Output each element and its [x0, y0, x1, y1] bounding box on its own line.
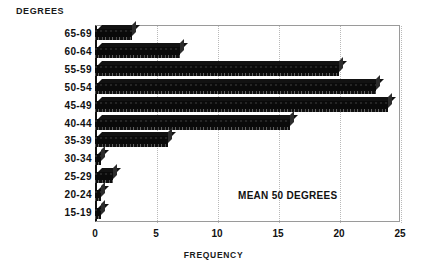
bar-texture-band-upper — [95, 137, 168, 139]
bar — [95, 208, 101, 219]
bar — [95, 136, 168, 147]
bar-side-face — [101, 182, 105, 197]
bar-texture-band — [95, 162, 101, 165]
bar — [95, 119, 290, 130]
category-label: 50-54 — [30, 82, 92, 93]
bar-texture-band-upper — [95, 30, 132, 32]
bar — [95, 101, 388, 112]
x-tick-label: 0 — [80, 228, 110, 239]
category-label: 20-24 — [30, 189, 92, 200]
category-label: 60-64 — [30, 46, 92, 57]
bar-side-face — [132, 21, 136, 36]
mean-annotation: MEAN 50 DEGREES — [238, 190, 338, 201]
bar-side-face — [101, 146, 105, 161]
bar-side-face — [180, 39, 184, 54]
bar-top-face — [98, 132, 176, 136]
category-label: 45-49 — [30, 100, 92, 111]
bar-texture-band — [95, 55, 180, 58]
category-label: 15-19 — [30, 207, 92, 218]
x-tick-label: 5 — [141, 228, 171, 239]
bar-texture-band-upper — [95, 102, 388, 104]
bar-side-face — [113, 164, 117, 179]
category-label: 55-59 — [30, 64, 92, 75]
bar-texture-band-upper — [95, 173, 113, 175]
bar — [95, 47, 180, 58]
x-axis-tick-labels: 0510152025 — [0, 228, 427, 244]
category-axis-labels: 65-6960-6455-5950-5445-4940-4435-3930-34… — [26, 25, 92, 222]
category-label: 30-34 — [30, 153, 92, 164]
bar — [95, 154, 101, 165]
x-tick-label: 25 — [385, 228, 415, 239]
bar-texture-band — [95, 144, 168, 147]
bar-side-face — [388, 93, 392, 108]
bar-side-face — [101, 200, 105, 215]
x-tick-label: 10 — [202, 228, 232, 239]
bar-texture-band — [95, 73, 339, 76]
bar-texture-band-upper — [95, 66, 339, 68]
bar-top-face — [98, 168, 121, 172]
gridline-25 — [401, 26, 403, 223]
bar-texture-band-upper — [95, 84, 376, 86]
x-tick-label: 20 — [324, 228, 354, 239]
category-label: 25-29 — [30, 171, 92, 182]
bar-top-face — [98, 61, 347, 65]
bar — [95, 83, 376, 94]
category-label: 40-44 — [30, 118, 92, 129]
bar-texture-band — [95, 37, 132, 40]
y-axis-caption: DEGREES — [16, 6, 64, 16]
bar — [95, 29, 132, 40]
x-tick-label: 15 — [263, 228, 293, 239]
bar-side-face — [168, 128, 172, 143]
bar-top-face — [98, 79, 384, 83]
bar-top-face — [98, 97, 396, 101]
bar-side-face — [290, 111, 294, 126]
bar-top-face — [98, 115, 298, 119]
bar — [95, 190, 101, 201]
bar-side-face — [339, 57, 343, 72]
bar-texture-band — [95, 216, 101, 219]
bar — [95, 65, 339, 76]
category-label: 65-69 — [30, 28, 92, 39]
bar-side-face — [376, 75, 380, 90]
category-label: 35-39 — [30, 135, 92, 146]
bar-texture-band — [95, 109, 388, 112]
bar-top-face — [98, 43, 188, 47]
x-axis-caption: FREQUENCY — [0, 250, 427, 260]
bar-chart: DEGREES 65-6960-6455-5950-5445-4940-4435… — [0, 0, 427, 276]
bar-texture-band — [95, 198, 101, 201]
bar-texture-band-upper — [95, 48, 180, 50]
bar-texture-band — [95, 91, 376, 94]
bar-texture-band — [95, 127, 290, 130]
bar-texture-band-upper — [95, 120, 290, 122]
